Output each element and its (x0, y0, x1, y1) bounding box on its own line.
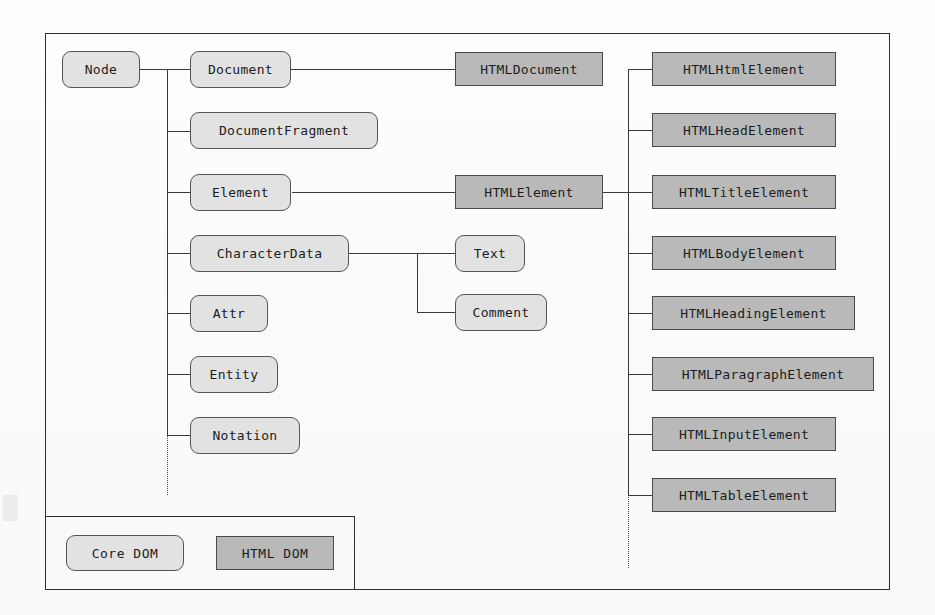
connector-text (417, 253, 455, 254)
connector-htmlelement-stub (603, 192, 629, 193)
node-box-htmlheadelement[interactable]: HTMLHeadElement (652, 113, 836, 147)
connector-element-htmlelement (292, 192, 455, 193)
node-box-htmlelement[interactable]: HTMLElement (455, 175, 603, 209)
connector-html-htmlbodyelement (628, 253, 652, 254)
node-box-documentfragment[interactable]: DocumentFragment (190, 112, 378, 149)
node-box-notation[interactable]: Notation (190, 417, 300, 454)
diagram-canvas: Node Document DocumentFragment Element C… (0, 0, 935, 615)
connector-html-htmltitleelement (628, 192, 652, 193)
node-box-htmltableelement[interactable]: HTMLTableElement (652, 478, 836, 512)
connector-core-document (167, 69, 191, 70)
node-box-node[interactable]: Node (62, 51, 140, 88)
node-box-element[interactable]: Element (190, 174, 291, 211)
node-box-htmltitleelement[interactable]: HTMLTitleElement (652, 175, 836, 209)
html-continuation-dotted (628, 495, 629, 568)
scan-artifact (3, 495, 18, 521)
connector-core-trunk (167, 69, 168, 435)
connector-core-notation (167, 435, 191, 436)
node-box-attr[interactable]: Attr (190, 295, 268, 332)
connector-node-stub (140, 69, 168, 70)
node-box-characterdata[interactable]: CharacterData (190, 235, 349, 272)
node-box-document[interactable]: Document (190, 51, 291, 88)
connector-html-htmlparagraphelement (628, 374, 652, 375)
connector-core-element (167, 192, 191, 193)
connector-core-entity (167, 374, 191, 375)
legend-swatch-core-dom[interactable]: Core DOM (66, 535, 184, 571)
connector-html-htmlhtmlelement (628, 69, 652, 70)
node-box-htmlparagraphelement[interactable]: HTMLParagraphElement (652, 357, 874, 391)
connector-core-attr (167, 313, 191, 314)
connector-characterdata-stub (349, 253, 418, 254)
connector-html-htmlinputelement (628, 434, 652, 435)
connector-characterdata-split (417, 253, 418, 312)
connector-html-htmlheadingelement (628, 313, 652, 314)
connector-core-documentfragment (167, 131, 191, 132)
connector-html-htmlheadelement (628, 130, 652, 131)
core-continuation-dotted (167, 435, 168, 495)
node-box-htmlinputelement[interactable]: HTMLInputElement (652, 417, 836, 451)
connector-html-htmltableelement (628, 495, 652, 496)
legend-swatch-html-dom[interactable]: HTML DOM (216, 536, 334, 570)
connector-comment (417, 312, 455, 313)
node-box-entity[interactable]: Entity (190, 356, 278, 393)
node-box-text[interactable]: Text (455, 235, 525, 272)
node-box-htmldocument[interactable]: HTMLDocument (455, 52, 603, 86)
node-box-comment[interactable]: Comment (455, 294, 547, 331)
connector-core-characterdata (167, 253, 191, 254)
node-box-htmlheadingelement[interactable]: HTMLHeadingElement (652, 296, 855, 330)
node-box-htmlhtmlelement[interactable]: HTMLHtmlElement (652, 52, 836, 86)
connector-document-htmldocument (290, 69, 455, 70)
node-box-htmlbodyelement[interactable]: HTMLBodyElement (652, 236, 836, 270)
connector-html-trunk (628, 69, 629, 495)
